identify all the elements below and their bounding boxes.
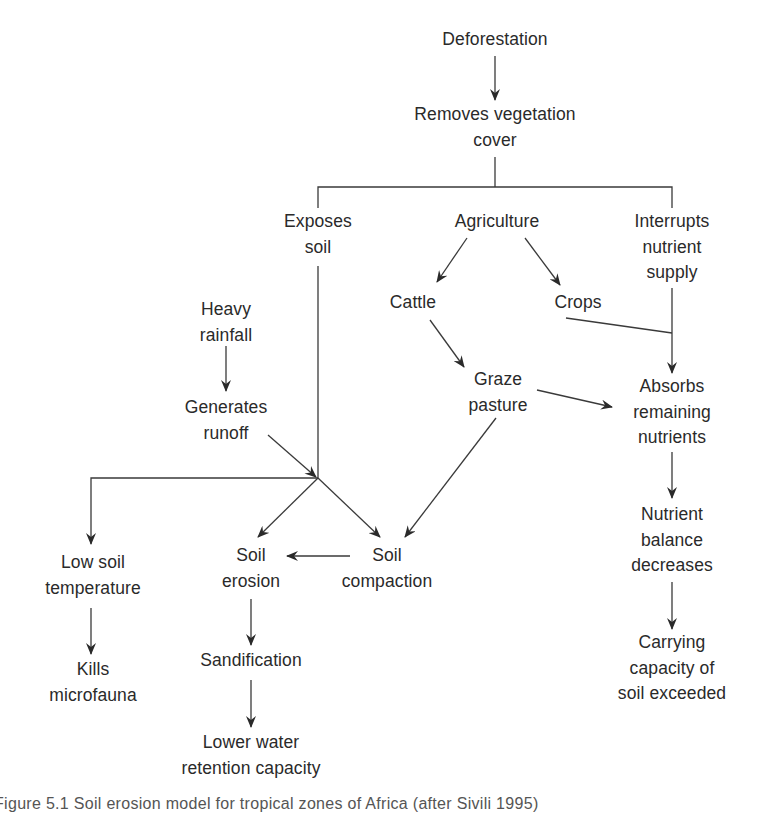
node-text: nutrients <box>633 425 711 451</box>
node-text: Cattle <box>390 290 436 316</box>
branch-bar-top <box>318 187 672 208</box>
node-nutrient-balance-decreases: Nutrient balance decreases <box>631 502 713 579</box>
node-text: pasture <box>468 393 527 419</box>
node-text: Absorbs <box>633 374 711 400</box>
node-text: Soil <box>342 543 433 569</box>
node-text: cover <box>414 128 575 154</box>
figure-caption: Figure 5.1 Soil erosion model for tropic… <box>0 795 539 813</box>
node-text: supply <box>635 260 710 286</box>
node-deforestation: Deforestation <box>442 27 547 53</box>
arrow-junction-to-compaction <box>318 478 380 537</box>
node-text: retention capacity <box>182 756 321 782</box>
node-text: Soil <box>222 543 280 569</box>
node-kills-microfauna: Kills microfauna <box>49 657 137 708</box>
arrow-agriculture-to-cattle <box>437 238 467 282</box>
arrow-junction-to-erosion <box>258 478 318 537</box>
node-text: nutrient <box>635 235 710 261</box>
node-agriculture: Agriculture <box>455 209 540 235</box>
node-text: compaction <box>342 569 433 595</box>
node-text: erosion <box>222 569 280 595</box>
node-heavy-rainfall: Heavy rainfall <box>200 297 252 348</box>
node-lower-water-retention: Lower water retention capacity <box>182 730 321 781</box>
node-text: Interrupts <box>635 209 710 235</box>
arrow-graze-to-absorbs <box>537 390 612 407</box>
node-cattle: Cattle <box>390 290 436 316</box>
node-generates-runoff: Generates runoff <box>185 395 268 446</box>
arrow-graze-to-compaction <box>405 418 496 537</box>
node-sandification: Sandification <box>200 648 302 674</box>
node-text: Nutrient <box>631 502 713 528</box>
node-soil-compaction: Soil compaction <box>342 543 433 594</box>
node-text: Heavy <box>200 297 252 323</box>
node-removes-vegetation-cover: Removes vegetation cover <box>414 102 575 153</box>
node-text: remaining <box>633 400 711 426</box>
arrow-runoff-to-junction <box>268 435 316 477</box>
node-crops: Crops <box>554 290 601 316</box>
node-text: microfauna <box>49 683 137 709</box>
node-text: Carrying <box>618 630 726 656</box>
node-text: balance <box>631 528 713 554</box>
node-text: Agriculture <box>455 209 540 235</box>
node-text: Kills <box>49 657 137 683</box>
node-text: Crops <box>554 290 601 316</box>
node-text: Deforestation <box>442 27 547 53</box>
node-text: decreases <box>631 553 713 579</box>
node-text: Graze <box>468 367 527 393</box>
node-text: Exposes <box>284 209 352 235</box>
node-text: rainfall <box>200 323 252 349</box>
node-text: Generates <box>185 395 268 421</box>
node-text: temperature <box>45 576 140 602</box>
arrow-agriculture-to-crops <box>525 238 560 285</box>
node-text: runoff <box>185 421 268 447</box>
node-exposes-soil: Exposes soil <box>284 209 352 260</box>
node-text: Lower water <box>182 730 321 756</box>
node-text: capacity of <box>618 656 726 682</box>
node-soil-erosion: Soil erosion <box>222 543 280 594</box>
node-absorbs-remaining-nutrients: Absorbs remaining nutrients <box>633 374 711 451</box>
node-text: soil exceeded <box>618 681 726 707</box>
node-interrupts-nutrient-supply: Interrupts nutrient supply <box>635 209 710 286</box>
node-graze-pasture: Graze pasture <box>468 367 527 418</box>
node-text: Removes vegetation <box>414 102 575 128</box>
node-low-soil-temperature: Low soil temperature <box>45 550 140 601</box>
node-carrying-capacity-exceeded: Carrying capacity of soil exceeded <box>618 630 726 707</box>
line-crops-join <box>566 318 672 333</box>
arrow-cattle-to-graze <box>430 320 464 367</box>
node-text: soil <box>284 235 352 261</box>
node-text: Low soil <box>45 550 140 576</box>
node-text: Sandification <box>200 648 302 674</box>
